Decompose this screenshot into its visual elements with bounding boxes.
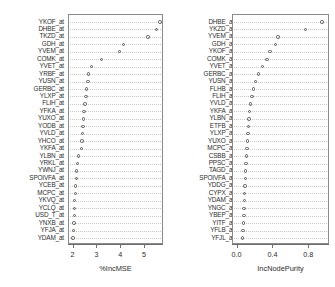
data-point: [73, 207, 76, 210]
data-point: [254, 80, 257, 83]
grid-line: [234, 74, 327, 75]
grid-line: [234, 164, 327, 165]
grid-line: [234, 96, 327, 97]
data-point: [72, 229, 75, 232]
data-point: [244, 162, 247, 165]
data-point: [241, 236, 244, 239]
axis-tick: [144, 244, 145, 248]
axis-tick-label: 0.4: [267, 250, 277, 259]
data-point: [268, 50, 271, 53]
grid-line: [234, 231, 327, 232]
grid-line: [70, 164, 161, 165]
grid-line: [70, 223, 161, 224]
grid-line: [234, 37, 327, 38]
grid-line: [234, 193, 327, 194]
category-label: YKVQ_at: [38, 196, 64, 204]
data-point: [80, 139, 83, 142]
data-point: [73, 199, 76, 202]
data-point: [118, 50, 121, 53]
grid-line: [234, 29, 327, 30]
grid-line: [234, 208, 327, 209]
data-point: [82, 110, 85, 113]
grid-line: [70, 22, 161, 23]
category-label: YKFA_at: [40, 144, 64, 152]
category-label: YDAM_at: [208, 196, 234, 204]
data-point: [87, 72, 90, 75]
grid-line: [70, 231, 161, 232]
grid-line: [70, 29, 161, 30]
data-point: [261, 65, 264, 68]
data-point: [80, 147, 83, 150]
category-label: YUXO_at: [38, 114, 64, 122]
category-label: YUSN_at: [38, 77, 64, 85]
grid-line: [234, 186, 327, 187]
category-labels-incnodepurity: DHBE_atYKZD_atYVEM_atGDH_atYKOF_atCOMK_a…: [178, 16, 234, 236]
data-point: [265, 58, 268, 61]
axis-tick-label: 3: [94, 250, 98, 259]
grid-line: [70, 59, 161, 60]
grid-line: [70, 156, 161, 157]
data-point: [304, 28, 307, 31]
data-point: [244, 169, 247, 172]
grid-line: [234, 82, 327, 83]
data-point: [320, 20, 323, 23]
grid-line: [234, 216, 327, 217]
data-point: [243, 199, 246, 202]
plot-frame-incnodepurity: [232, 14, 329, 244]
grid-line: [70, 216, 161, 217]
axis-line: [232, 244, 329, 245]
data-point: [242, 221, 245, 224]
grid-line: [70, 44, 161, 45]
grid-line: [70, 171, 161, 172]
grid-line: [70, 208, 161, 209]
data-point: [155, 28, 158, 31]
x-axis-title-incnodepurity: IncNodePurity: [232, 264, 329, 273]
data-point: [84, 95, 87, 98]
data-point: [245, 154, 248, 157]
data-point: [245, 147, 248, 150]
data-point: [244, 177, 247, 180]
data-point: [86, 80, 89, 83]
axis-tick-label: 5: [142, 250, 146, 259]
data-point: [122, 43, 125, 46]
axis-line: [68, 244, 163, 245]
data-point: [276, 35, 279, 38]
category-label: MCPC_at: [207, 144, 234, 152]
data-point: [246, 139, 249, 142]
data-point: [248, 110, 251, 113]
axis-tick: [237, 244, 238, 248]
grid-line: [234, 52, 327, 53]
axis-tick-label: 0.0: [232, 250, 242, 259]
grid-line: [70, 89, 161, 90]
data-point: [252, 87, 255, 90]
category-label: YDAM_at: [38, 233, 64, 241]
axis-tick: [73, 244, 74, 248]
grid-line: [234, 59, 327, 60]
data-point: [257, 72, 260, 75]
data-point: [85, 87, 88, 90]
grid-line: [70, 149, 161, 150]
data-point: [71, 236, 74, 239]
grid-line: [70, 82, 161, 83]
data-point: [241, 229, 244, 232]
grid-line: [234, 238, 327, 239]
data-point: [74, 184, 77, 187]
grid-line: [70, 67, 161, 68]
data-point: [81, 125, 84, 128]
grid-line: [234, 89, 327, 90]
axis-tick-label: 2: [71, 250, 75, 259]
category-label: YFLB_at: [210, 226, 234, 234]
axis-tick-label: 4: [118, 250, 122, 259]
grid-line: [70, 238, 161, 239]
grid-line: [70, 186, 161, 187]
axis-tick: [308, 244, 309, 248]
axis-tick: [120, 244, 121, 248]
data-point: [76, 162, 79, 165]
data-point: [243, 192, 246, 195]
grid-line: [234, 171, 327, 172]
grid-line: [234, 22, 327, 23]
x-axis-title-incmse: %IncMSE: [68, 264, 163, 273]
axis-tick: [96, 244, 97, 248]
category-label: YVLD_at: [39, 129, 64, 137]
grid-line: [234, 67, 327, 68]
